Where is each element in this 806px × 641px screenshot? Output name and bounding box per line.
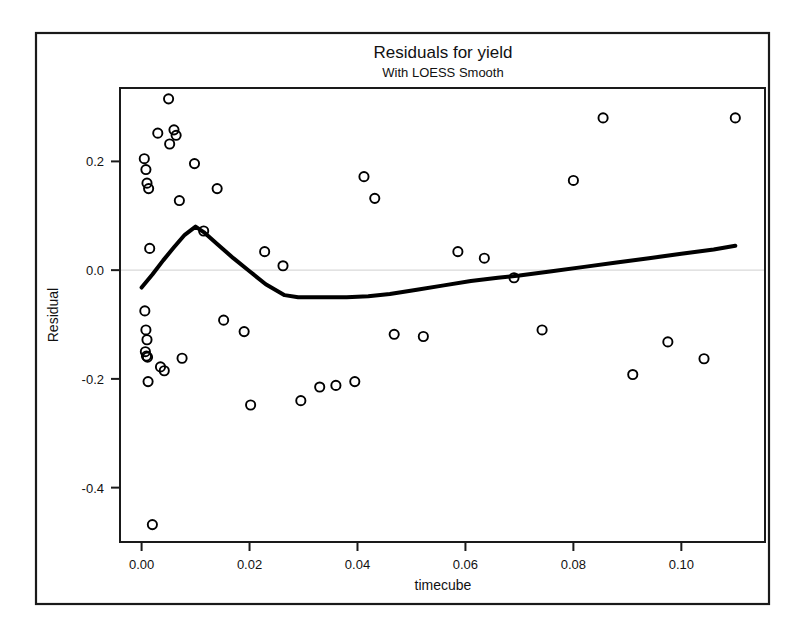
residual-scatter-plot: Residuals for yield With LOESS Smooth 0.… [0,0,806,641]
x-tick-label: 0.00 [129,557,154,572]
x-axis-label: timecube [415,577,472,593]
figure-container: Residuals for yield With LOESS Smooth 0.… [0,0,806,641]
chart-title: Residuals for yield [374,43,513,62]
y-axis-label: Residual [45,288,61,342]
y-tick-label: -0.4 [82,481,104,496]
x-tick-label: 0.06 [453,557,478,572]
plot-area-frame [120,88,765,542]
y-tick-label: 0.0 [86,263,104,278]
chart-subtitle: With LOESS Smooth [382,65,503,80]
x-tick-label: 0.10 [669,557,694,572]
y-tick-label: -0.2 [82,372,104,387]
x-tick-label: 0.04 [345,557,370,572]
x-tick-label: 0.08 [561,557,586,572]
y-tick-label: 0.2 [86,154,104,169]
x-tick-label: 0.02 [237,557,262,572]
